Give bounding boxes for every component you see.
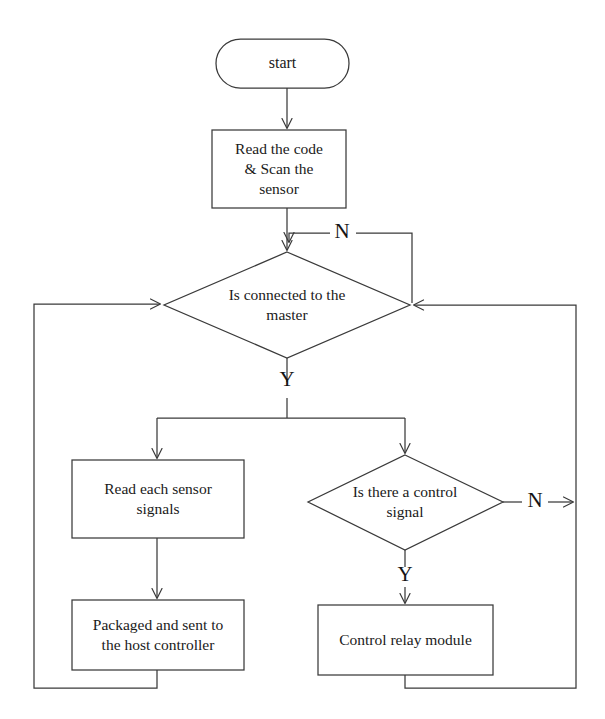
node-is-connected-shape	[164, 252, 410, 358]
edge-connected-no-arrow	[289, 233, 330, 242]
node-read-scan-shape	[212, 130, 346, 208]
node-start-shape	[216, 39, 349, 88]
flowchart-graphics	[0, 0, 605, 719]
node-is-control-shape	[308, 455, 503, 550]
edge-connected-no-loop	[356, 233, 412, 303]
edge-left-return-loop	[34, 304, 160, 688]
node-read-signals-shape	[72, 460, 244, 538]
node-relay-shape	[318, 605, 493, 675]
flowchart-canvas: start Read the code & Scan the sensor Is…	[0, 0, 605, 719]
node-packaged-shape	[72, 600, 244, 670]
